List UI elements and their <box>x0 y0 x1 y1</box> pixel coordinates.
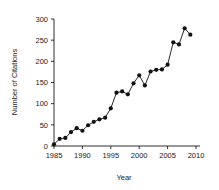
data-point <box>148 69 152 73</box>
data-point <box>52 142 56 146</box>
data-point <box>97 117 101 121</box>
y-tick-label: 300 <box>35 15 48 24</box>
series-markers <box>52 26 193 146</box>
data-point <box>75 126 79 130</box>
data-point <box>69 130 73 134</box>
data-point <box>92 120 96 124</box>
data-point <box>154 68 158 72</box>
x-axis: 198519901995200020052010 Year <box>46 146 205 182</box>
data-point <box>143 83 147 87</box>
data-point <box>137 73 141 77</box>
data-point <box>131 81 135 85</box>
data-point <box>166 63 170 67</box>
x-tick-label: 1990 <box>74 151 91 160</box>
data-point <box>177 42 181 46</box>
y-tick-label: 100 <box>35 99 48 108</box>
data-point <box>86 123 90 127</box>
x-tick-label: 1985 <box>46 151 63 160</box>
data-point <box>63 136 67 140</box>
y-axis-title: Number of Citations <box>10 49 19 116</box>
data-point <box>109 106 113 110</box>
data-point <box>58 137 62 141</box>
data-point <box>183 26 187 30</box>
y-axis: 050100150200250300 Number of Citations <box>10 15 54 151</box>
data-point <box>120 89 124 93</box>
x-tick-label: 2010 <box>188 151 205 160</box>
y-axis-ticks: 050100150200250300 <box>35 15 54 151</box>
x-tick-label: 2005 <box>159 151 176 160</box>
chart-canvas: 050100150200250300 Number of Citations 1… <box>0 0 219 190</box>
citations-line-chart: 050100150200250300 Number of Citations 1… <box>0 0 219 190</box>
y-tick-label: 200 <box>35 57 48 66</box>
data-point <box>114 91 118 95</box>
x-tick-label: 2000 <box>131 151 148 160</box>
y-tick-label: 150 <box>35 78 48 87</box>
y-tick-label: 50 <box>40 121 48 130</box>
series-line <box>54 28 190 144</box>
data-point <box>171 40 175 44</box>
data-point <box>188 33 192 37</box>
data-point <box>103 116 107 120</box>
y-tick-label: 0 <box>44 142 48 151</box>
x-tick-label: 1995 <box>102 151 119 160</box>
x-axis-ticks: 198519901995200020052010 <box>46 146 205 160</box>
data-series-citations <box>52 26 193 146</box>
data-point <box>126 92 130 96</box>
data-point <box>80 129 84 133</box>
y-tick-label: 250 <box>35 36 48 45</box>
x-axis-title: Year <box>116 173 132 182</box>
data-point <box>160 67 164 71</box>
